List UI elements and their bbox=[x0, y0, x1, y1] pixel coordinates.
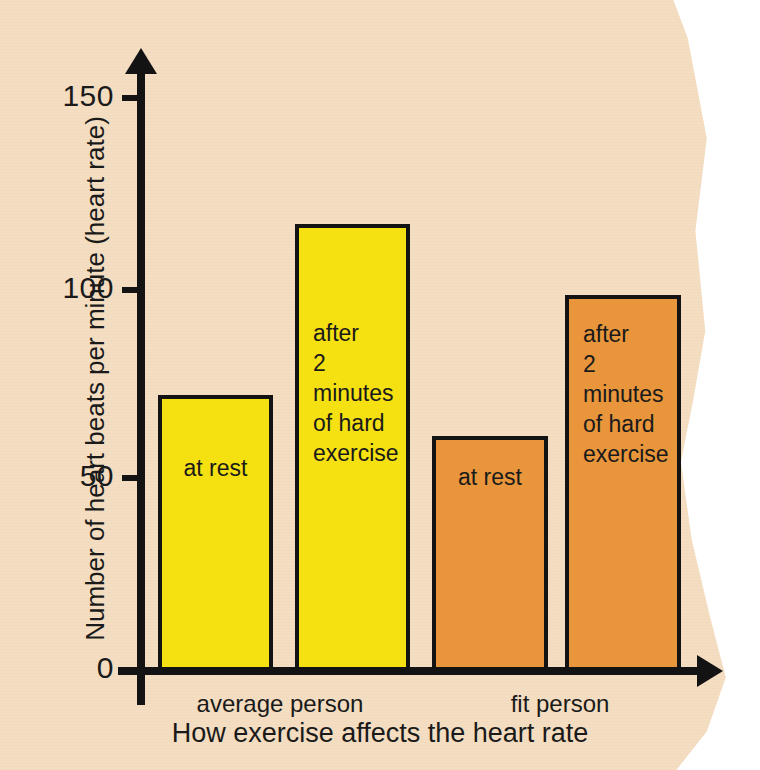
x-group-label-fit-person: fit person bbox=[470, 690, 650, 718]
bar-label-fit-person-after-exercise: after 2 minutes of hard exercise bbox=[583, 319, 677, 469]
bar-average-person-after-exercise[interactable]: after 2 minutes of hard exercise bbox=[295, 224, 410, 671]
y-tick-mark-100 bbox=[122, 287, 141, 293]
bar-average-person-at-rest[interactable]: at rest bbox=[158, 395, 273, 671]
bar-fit-person-at-rest[interactable]: at rest bbox=[432, 436, 548, 671]
x-group-label-average-person: average person bbox=[190, 690, 370, 718]
y-axis-arrowhead-icon bbox=[125, 48, 157, 74]
chart-title: How exercise affects the heart rate bbox=[0, 718, 760, 749]
bar-label-fit-person-at-rest: at rest bbox=[436, 462, 544, 492]
bar-chart: 150 100 50 0 at rest after 2 minutes of … bbox=[0, 0, 760, 770]
y-axis-line bbox=[137, 60, 145, 705]
x-axis-arrowhead-icon bbox=[697, 655, 723, 687]
y-tick-mark-50 bbox=[122, 475, 141, 481]
bar-label-average-person-at-rest: at rest bbox=[162, 453, 269, 483]
y-tick-mark-150 bbox=[122, 95, 141, 101]
bar-fit-person-after-exercise[interactable]: after 2 minutes of hard exercise bbox=[565, 295, 681, 671]
y-axis-title: Number of heart beats per minute (heart … bbox=[80, 69, 111, 689]
bar-label-average-person-after-exercise: after 2 minutes of hard exercise bbox=[313, 318, 406, 468]
chart-page: 150 100 50 0 at rest after 2 minutes of … bbox=[0, 0, 760, 770]
